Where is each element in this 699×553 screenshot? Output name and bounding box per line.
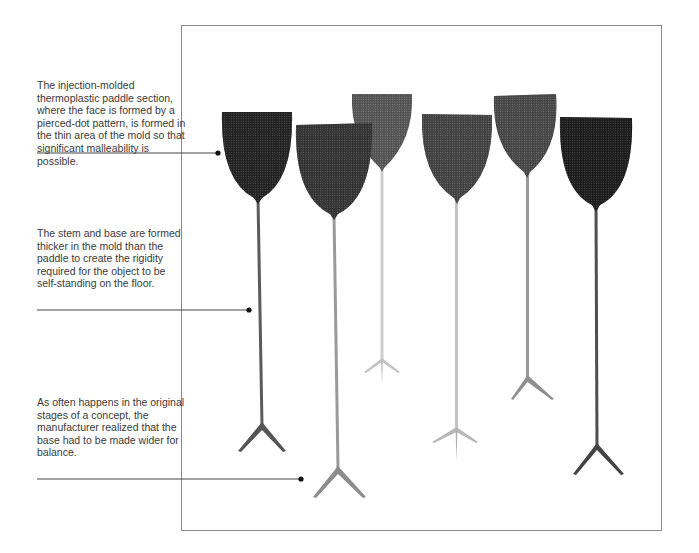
paddle-5 [494, 94, 557, 400]
fly-swatter-illustration [0, 0, 699, 553]
leader-line-stem-and-base [37, 307, 252, 312]
paddle-4 [422, 114, 492, 462]
paddle-2 [296, 123, 372, 498]
paddle-6 [560, 117, 632, 475]
leader-line-base-width [37, 476, 304, 481]
leader-line-paddle-section [37, 150, 221, 155]
paddle-1 [222, 112, 292, 452]
